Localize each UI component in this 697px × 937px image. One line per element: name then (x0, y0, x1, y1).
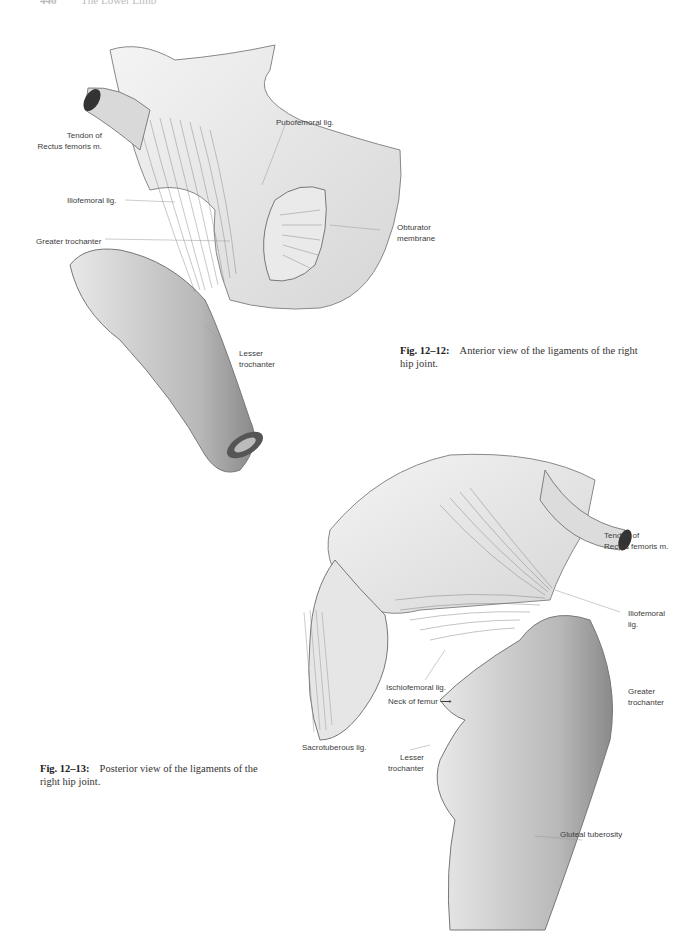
figure-caption-12-12: Fig. 12–12:Anterior view of the ligament… (400, 344, 650, 370)
label-iliofemoral-lig-posterior: Iliofemoral lig. (628, 608, 665, 630)
posterior-hip-illustration (0, 0, 697, 937)
label-lesser-trochanter-anterior: Lesser trochanter (239, 348, 275, 370)
label-neck-of-femur: Neck of femur ⟶ (388, 696, 451, 707)
label-greater-trochanter-anterior: Greater trochanter (36, 236, 101, 247)
label-lesser-trochanter-posterior: Lesser trochanter (380, 752, 424, 774)
label-ischiofemoral-lig: Ischiofemoral lig. (386, 682, 446, 693)
figure-caption-12-13: Fig. 12–13:Posterior view of the ligamen… (40, 762, 270, 788)
label-sacrotuberous-lig: Sacrotuberous lig. (302, 742, 366, 753)
caption-label: Fig. 12–12: (400, 345, 450, 356)
label-obturator-membrane: Obturator membrane (397, 222, 435, 244)
label-pubofemoral-lig: Pubofemoral lig. (276, 117, 334, 128)
caption-label: Fig. 12–13: (40, 763, 90, 774)
label-iliofemoral-lig-anterior: Iliofemoral lig. (67, 195, 116, 206)
textbook-page: 446 The Lower Limb (0, 0, 697, 937)
label-gluteal-tuberosity: Gluteal tuberosity (560, 829, 622, 840)
label-tendon-rectus-femoris-posterior: Tendon of Rectus femoris m. (604, 530, 668, 552)
label-greater-trochanter-posterior: Greater trochanter (628, 686, 664, 708)
label-tendon-rectus-femoris-anterior: Tendon of Rectus femoris m. (30, 130, 102, 152)
